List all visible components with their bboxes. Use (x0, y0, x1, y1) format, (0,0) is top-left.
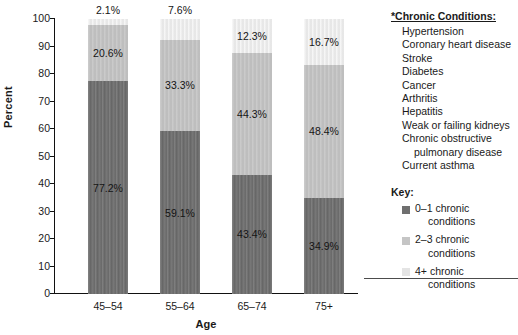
y-axis-tick-label: 60 (24, 123, 50, 133)
condition-list-item: Cancer (402, 79, 518, 92)
condition-label-continuation: pulmonary disease (402, 146, 518, 159)
condition-label: Diabetes (402, 65, 443, 77)
y-axis-tick-label: 10 (24, 261, 50, 271)
y-axis-tick-label: 100 (24, 13, 50, 23)
legend-label-line1: 2–3 chronic (415, 233, 469, 245)
condition-label: Hepatitis (402, 105, 443, 117)
y-axis-tick-label: 50 (24, 151, 50, 161)
condition-list-item: Stroke (402, 52, 518, 65)
condition-label: Weak or failing kidneys (402, 119, 510, 131)
legend-label: 2–3 chronicconditions (415, 233, 518, 260)
legend-color-swatch (402, 206, 410, 214)
bar-segment-value-label: 33.3% (146, 79, 214, 91)
bar-segment-value-label: 16.7% (290, 36, 358, 48)
bar-segment: 59.1% (160, 131, 200, 294)
x-axis-tick-label: 65–74 (217, 300, 287, 312)
condition-list-item: Chronic obstructivepulmonary disease (402, 132, 518, 159)
bar-segment-value-label: 7.6% (146, 4, 214, 16)
bar-segment-value-label: 20.6% (74, 47, 142, 59)
legend-label-line2: conditions (415, 247, 518, 260)
chronic-conditions-heading: *Chronic Conditions: (391, 10, 496, 22)
bar-segment: 34.9% (304, 198, 344, 294)
condition-label: Arthritis (402, 92, 438, 104)
bar-55-64: 7.6%33.3%59.1% (160, 19, 200, 294)
condition-label: Coronary heart disease (402, 38, 511, 50)
condition-list-item: Weak or failing kidneys (402, 119, 518, 132)
y-axis-tick-label: 30 (24, 206, 50, 216)
x-axis-tick-label: 75+ (289, 300, 359, 312)
legend-color-swatch (402, 237, 410, 245)
bar-segment-value-label: 59.1% (146, 207, 214, 219)
chronic-conditions-list: HypertensionCoronary heart diseaseStroke… (402, 25, 518, 172)
bar-segment-value-label: 34.9% (290, 240, 358, 252)
legend-label: 0–1 chronicconditions (415, 202, 518, 229)
condition-label: Cancer (402, 79, 436, 91)
condition-list-item: Arthritis (402, 92, 518, 105)
condition-label: Hypertension (402, 25, 464, 37)
y-axis-ticks: 1009080706050403020100 (20, 0, 50, 335)
x-axis-tick-label: 45–54 (73, 300, 143, 312)
bar-segment-value-label: 12.3% (218, 30, 286, 42)
condition-list-item: Hepatitis (402, 105, 518, 118)
bar-75+: 16.7%48.4%34.9% (304, 19, 344, 294)
bar-segment-value-label: 43.4% (218, 228, 286, 240)
bar-segment: 48.4% (304, 65, 344, 198)
bar-segment-value-label: 77.2% (74, 182, 142, 194)
y-axis-tick-label: 20 (24, 233, 50, 243)
bar-segment: 16.7% (304, 19, 344, 65)
legend-item: 2–3 chronicconditions (402, 233, 518, 260)
condition-list-item: Coronary heart disease (402, 38, 518, 51)
bar-segment: 77.2% (88, 81, 128, 294)
y-axis-title: Percent (2, 86, 14, 128)
bar-segment-value-label: 48.4% (290, 125, 358, 137)
condition-list-item: Diabetes (402, 65, 518, 78)
bar-segment: 33.3% (160, 40, 200, 132)
chart-legend: 0–1 chronicconditions2–3 chronicconditio… (402, 202, 518, 296)
side-panel: *Chronic Conditions: HypertensionCoronar… (364, 0, 518, 335)
legend-label-line2: conditions (415, 278, 518, 291)
condition-list-item: Hypertension (402, 25, 518, 38)
key-heading: Key: (391, 186, 414, 198)
bar-segment: 12.3% (232, 19, 272, 53)
legend-label-line2: conditions (415, 215, 518, 228)
bar-45-54: 2.1%20.6%77.2% (88, 19, 128, 294)
y-axis-tick-label: 40 (24, 178, 50, 188)
x-axis-title: Age (54, 318, 358, 330)
y-axis-line (54, 18, 55, 294)
bar-65-74: 12.3%44.3%43.4% (232, 19, 272, 294)
bar-segment: 20.6% (88, 25, 128, 82)
legend-label-line1: 0–1 chronic (415, 202, 469, 214)
legend-color-swatch (402, 268, 410, 276)
condition-label: Chronic obstructive (402, 132, 492, 144)
condition-label: Current asthma (402, 159, 474, 171)
y-axis-tick-label: 70 (24, 96, 50, 106)
legend-label-line1: 4+ chronic (415, 265, 464, 277)
y-axis-tick-label: 0 (24, 288, 50, 298)
y-axis-tick-label: 90 (24, 41, 50, 51)
bar-segment-value-label: 2.1% (74, 4, 142, 16)
bar-segment: 44.3% (232, 53, 272, 175)
legend-item: 0–1 chronicconditions (402, 202, 518, 229)
bar-segment: 43.4% (232, 175, 272, 294)
condition-list-item: Current asthma (402, 159, 518, 172)
bar-segment: 7.6% (160, 19, 200, 40)
horizontal-rule (364, 278, 518, 279)
bar-segment-value-label: 44.3% (218, 108, 286, 120)
x-axis-tick-label: 55–64 (145, 300, 215, 312)
condition-label: Stroke (402, 52, 432, 64)
stacked-bar-chart: Percent 1009080706050403020100 2.1%20.6%… (0, 0, 360, 335)
y-axis-tick-label: 80 (24, 68, 50, 78)
